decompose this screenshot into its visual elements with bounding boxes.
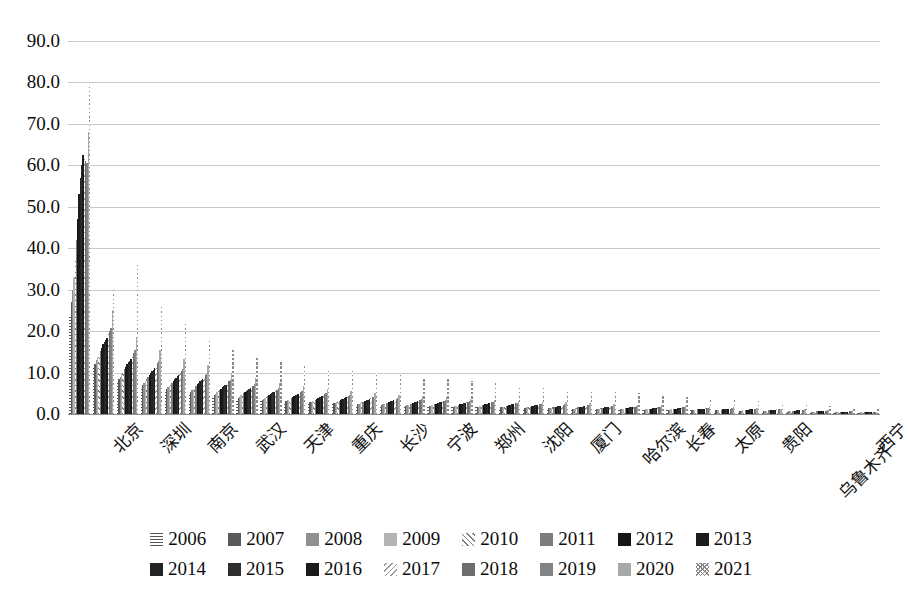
legend-item[interactable]: 2021	[696, 558, 752, 580]
legend-item[interactable]: 2020	[618, 558, 674, 580]
legend-label: 2021	[714, 558, 752, 580]
legend-swatch-icon	[228, 563, 241, 576]
legend-item[interactable]: 2008	[306, 528, 362, 550]
y-axis-tick-label: 90.0	[27, 30, 60, 52]
bar-group	[332, 41, 353, 414]
legend-label: 2018	[480, 558, 518, 580]
y-axis-tick-label: 50.0	[27, 196, 60, 218]
bar	[662, 395, 663, 414]
bar-group	[165, 41, 186, 414]
bar	[89, 87, 90, 414]
legend-item[interactable]: 2011	[540, 528, 595, 550]
legend-swatch-icon	[618, 533, 631, 546]
bar	[400, 375, 401, 414]
bar-group	[690, 41, 711, 414]
legend-item[interactable]: 2016	[306, 558, 362, 580]
x-axis-tick-label: 宁波	[440, 416, 482, 458]
legend-item[interactable]: 2014	[150, 558, 206, 580]
legend-label: 2011	[558, 528, 595, 550]
bar	[113, 288, 114, 414]
legend-label: 2009	[402, 528, 440, 550]
legend-item[interactable]: 2012	[618, 528, 674, 550]
legend-label: 2016	[324, 558, 362, 580]
chart-legend: 2006200720082009201020112012201320142015…	[0, 524, 902, 600]
bar	[495, 383, 496, 414]
legend-label: 2007	[246, 528, 284, 550]
bar-group	[738, 41, 759, 414]
legend-swatch-icon	[540, 533, 553, 546]
legend-item[interactable]: 2010	[462, 528, 518, 550]
legend-item[interactable]: 2013	[696, 528, 752, 550]
bar-group	[571, 41, 592, 414]
bar-group	[236, 41, 257, 414]
legend-swatch-icon	[696, 533, 709, 546]
bar-group	[666, 41, 687, 414]
bar-series-container	[68, 41, 880, 414]
bar	[758, 401, 759, 414]
bar-group	[189, 41, 210, 414]
x-axis-tick-label: 北京	[106, 416, 148, 458]
legend-item[interactable]: 2019	[540, 558, 596, 580]
bar	[519, 385, 520, 414]
legend-swatch-icon	[384, 563, 397, 576]
legend-label: 2020	[636, 558, 674, 580]
bar-group	[427, 41, 448, 414]
bar-group	[595, 41, 616, 414]
bar	[280, 360, 281, 414]
bar	[471, 381, 472, 414]
y-axis-tick-label: 30.0	[27, 279, 60, 301]
bar	[877, 409, 878, 414]
legend-item[interactable]: 2017	[384, 558, 440, 580]
bar-group	[547, 41, 568, 414]
bar	[161, 306, 162, 414]
bar-group	[380, 41, 401, 414]
bar-group	[284, 41, 305, 414]
legend-swatch-icon	[228, 533, 241, 546]
bar-group	[212, 41, 233, 414]
bar-group	[475, 41, 496, 414]
bar-group	[260, 41, 281, 414]
bar	[686, 397, 687, 414]
bar-group	[810, 41, 831, 414]
bar-group	[499, 41, 520, 414]
legend-swatch-icon	[306, 533, 319, 546]
bar	[304, 366, 305, 414]
bar-group	[451, 41, 472, 414]
x-axis-tick-label: 天津	[297, 416, 339, 458]
bar-group	[523, 41, 544, 414]
legend-item[interactable]: 2007	[228, 528, 284, 550]
bar	[853, 407, 854, 414]
legend-swatch-icon	[384, 533, 397, 546]
x-axis-tick-label: 长春	[679, 416, 721, 458]
legend-label: 2017	[402, 558, 440, 580]
legend-item[interactable]: 2015	[228, 558, 284, 580]
bar	[710, 398, 711, 414]
bar	[423, 377, 424, 414]
legend-swatch-icon	[150, 563, 163, 576]
bar	[376, 373, 377, 414]
bar-group	[762, 41, 783, 414]
bar	[328, 368, 329, 414]
bar	[447, 379, 448, 414]
legend-item[interactable]: 2018	[462, 558, 518, 580]
bar-group	[618, 41, 639, 414]
bar	[591, 391, 592, 414]
legend-item[interactable]: 2009	[384, 528, 440, 550]
x-axis-tick-label: 长沙	[392, 416, 434, 458]
legend-swatch-icon	[306, 563, 319, 576]
bar-group	[833, 41, 854, 414]
y-axis-tick-label: 80.0	[27, 71, 60, 93]
y-axis: 0.010.020.030.040.050.060.070.080.090.0	[0, 0, 68, 430]
legend-item[interactable]: 2006	[150, 528, 206, 550]
legend-row: 20142015201620172018201920202021	[0, 554, 902, 584]
legend-label: 2014	[168, 558, 206, 580]
bar-group	[69, 41, 90, 414]
legend-label: 2006	[168, 528, 206, 550]
x-axis-labels: 北京深圳南京武汉天津重庆长沙宁波郑州沈阳厦门哈尔滨长春太原贵阳乌鲁木齐西宁	[68, 416, 880, 516]
legend-swatch-icon	[540, 563, 553, 576]
x-axis-tick-label: 重庆	[345, 416, 387, 458]
plot-area	[68, 41, 880, 414]
x-axis-tick-label: 郑州	[488, 416, 530, 458]
bar	[185, 321, 186, 414]
